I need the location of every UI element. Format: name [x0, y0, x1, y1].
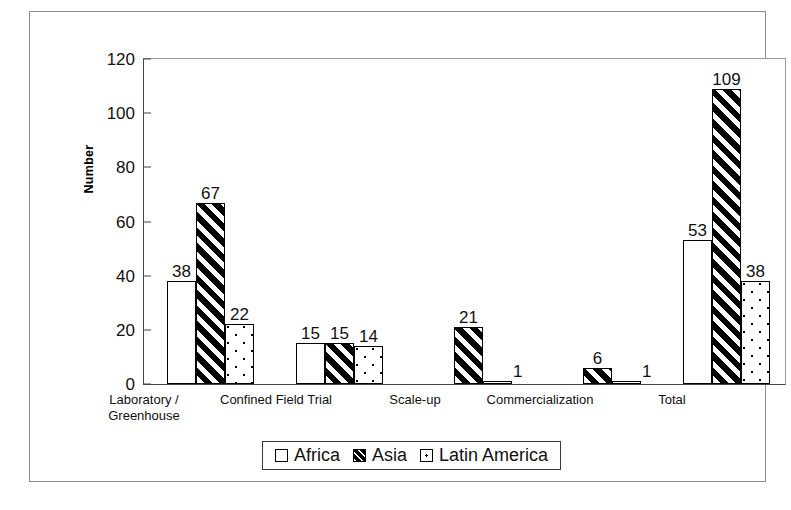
bars-layer: 38 67 22 15 15 [144, 59, 785, 384]
y-tick-label-80: 80 [116, 159, 135, 176]
category-label-commercialization: Commercialization [460, 392, 620, 408]
category-label-total: Total [612, 392, 732, 408]
bar-group-total: 53 109 38 [683, 59, 773, 384]
bar-value-asia-laboratory-greenhouse: 67 [201, 185, 220, 202]
bar-latin-america-commercialization: 1 [612, 381, 641, 384]
y-tick-label-100: 100 [107, 105, 135, 122]
bar-value-latin-america-laboratory-greenhouse: 22 [230, 306, 249, 323]
bar-value-asia-scale-up: 21 [459, 309, 478, 326]
bar-asia-commercialization: 6 [583, 368, 612, 384]
bar-africa-total: 53 [683, 240, 712, 384]
category-label-confined-field-trial: Confined Field Trial [196, 392, 356, 408]
y-tick-label-60: 60 [116, 213, 135, 230]
bar-latin-america-total: 38 [741, 281, 770, 384]
bar-value-latin-america-confined-field-trial: 14 [359, 328, 378, 345]
bar-value-latin-america-commercialization: 1 [642, 363, 651, 380]
latin-america-swatch-icon [420, 449, 433, 462]
bar-africa-laboratory-greenhouse: 38 [167, 281, 196, 384]
bar-asia-laboratory-greenhouse: 67 [196, 203, 225, 384]
legend-item-asia[interactable]: Asia [353, 446, 407, 464]
bar-value-latin-america-scale-up: 1 [513, 363, 522, 380]
bar-value-latin-america-total: 38 [746, 263, 765, 280]
legend-item-africa[interactable]: Africa [275, 446, 340, 464]
legend-item-latin-america[interactable]: Latin America [420, 446, 548, 464]
asia-swatch-icon [353, 449, 366, 462]
bar-africa-confined-field-trial: 15 [296, 343, 325, 384]
chart-outer-frame: Number 120 100 80 60 40 20 0 38 [29, 11, 766, 482]
category-label-line1: Scale-up [355, 392, 475, 408]
legend-label-asia: Asia [372, 446, 407, 464]
plot-area: 120 100 80 60 40 20 0 38 [143, 58, 786, 385]
bar-latin-america-confined-field-trial: 14 [354, 346, 383, 384]
category-label-laboratory-greenhouse: Laboratory / Greenhouse [79, 392, 209, 424]
bar-group-scale-up: 21 1 [425, 59, 515, 384]
y-tick-label-40: 40 [116, 267, 135, 284]
africa-swatch-icon [275, 449, 288, 462]
bar-asia-total: 109 [712, 89, 741, 384]
bar-group-confined-field-trial: 15 15 14 [296, 59, 386, 384]
y-axis-title: Number [82, 104, 96, 234]
y-tick-label-20: 20 [116, 321, 135, 338]
bar-value-africa-laboratory-greenhouse: 38 [172, 263, 191, 280]
bar-asia-confined-field-trial: 15 [325, 343, 354, 384]
bar-latin-america-scale-up: 1 [483, 381, 512, 384]
bar-latin-america-laboratory-greenhouse: 22 [225, 324, 254, 384]
bar-value-asia-confined-field-trial: 15 [330, 325, 349, 342]
y-tick-label-120: 120 [107, 51, 135, 68]
bar-group-commercialization: 6 1 [554, 59, 644, 384]
category-label-line1: Laboratory / [79, 392, 209, 408]
category-label-line2: Greenhouse [79, 408, 209, 424]
bar-value-africa-total: 53 [688, 222, 707, 239]
category-label-scale-up: Scale-up [355, 392, 475, 408]
bar-value-africa-confined-field-trial: 15 [301, 325, 320, 342]
y-tick-label-0: 0 [126, 376, 135, 393]
bar-asia-scale-up: 21 [454, 327, 483, 384]
category-label-line1: Total [612, 392, 732, 408]
bar-value-asia-total: 109 [712, 71, 740, 88]
legend-label-latin-america: Latin America [439, 446, 548, 464]
category-label-line1: Confined Field Trial [196, 392, 356, 408]
bar-group-laboratory-greenhouse: 38 67 22 [167, 59, 257, 384]
legend-label-africa: Africa [294, 446, 340, 464]
bar-chart: Number 120 100 80 60 40 20 0 38 [0, 0, 791, 510]
bar-value-asia-commercialization: 6 [593, 350, 602, 367]
category-label-line1: Commercialization [460, 392, 620, 408]
chart-legend: Africa Asia Latin America [262, 441, 561, 470]
